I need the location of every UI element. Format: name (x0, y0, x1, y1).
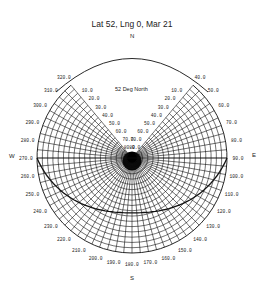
azimuth-label: 310.0 (44, 88, 58, 93)
azimuth-label: 200.0 (89, 256, 103, 261)
azimuth-label: 170.0 (144, 260, 158, 265)
azimuth-spoke (85, 163, 130, 240)
azimuth-spoke (137, 161, 214, 206)
azimuth-label: 190.0 (107, 260, 121, 265)
azimuth-label: 280.0 (21, 138, 35, 143)
altitude-label: 30.0 (158, 105, 169, 110)
azimuth-label: 320.0 (57, 75, 71, 80)
azimuth-label: 50.0 (208, 88, 219, 93)
azimuth-label: 70.0 (226, 120, 237, 125)
altitude-label: 20.0 (89, 96, 100, 101)
altitude-label: 20.0 (164, 96, 175, 101)
north-wedge (71, 63, 193, 156)
azimuth-label: 220.0 (57, 237, 71, 242)
altitude-label: 10.0 (171, 88, 182, 93)
azimuth-spoke (136, 162, 199, 225)
azimuth-spoke (65, 162, 128, 225)
azimuth-label: 80.0 (231, 138, 242, 143)
altitude-label: 50.0 (144, 121, 155, 126)
azimuth-label: 230.0 (44, 224, 58, 229)
altitude-label: 50.0 (109, 121, 120, 126)
altitude-label: 40.0 (102, 113, 113, 118)
altitude-label: 60.0 (116, 129, 127, 134)
polar-grid: 52 Deg North 40.050.060.070.080.090.0100… (0, 0, 264, 306)
altitude-label: 80.0 (124, 145, 135, 150)
azimuth-label: 100.0 (230, 174, 244, 179)
altitude-label: 30.0 (95, 105, 106, 110)
azimuth-spoke (135, 163, 180, 240)
altitude-label: 70.0 (131, 137, 142, 142)
azimuth-label: 240.0 (33, 209, 47, 214)
sun-path-diagram: Lat 52, Lng 0, Mar 21 N S E W 52 Deg Nor… (0, 0, 264, 306)
azimuth-label: 300.0 (33, 103, 47, 108)
azimuth-label: 120.0 (217, 209, 231, 214)
azimuth-label: 110.0 (225, 192, 239, 197)
azimuth-spoke (50, 161, 127, 206)
azimuth-label: 290.0 (26, 120, 40, 125)
altitude-label: 40.0 (151, 113, 162, 118)
altitude-label: 60.0 (137, 129, 148, 134)
azimuth-label: 250.0 (26, 192, 40, 197)
azimuth-label: 160.0 (161, 256, 175, 261)
azimuth-label: 210.0 (72, 248, 86, 253)
latitude-annotation: 52 Deg North (115, 86, 148, 92)
azimuth-label: 150.0 (178, 248, 192, 253)
azimuth-label: 270.0 (19, 156, 33, 161)
azimuth-label: 40.0 (195, 75, 206, 80)
azimuth-label: 130.0 (206, 224, 220, 229)
azimuth-label: 260.0 (21, 174, 35, 179)
azimuth-label: 60.0 (218, 103, 229, 108)
azimuth-label: 180.0 (125, 262, 139, 267)
altitude-label: 10.0 (82, 88, 93, 93)
azimuth-label: 140.0 (193, 237, 207, 242)
azimuth-label: 90.0 (232, 156, 243, 161)
